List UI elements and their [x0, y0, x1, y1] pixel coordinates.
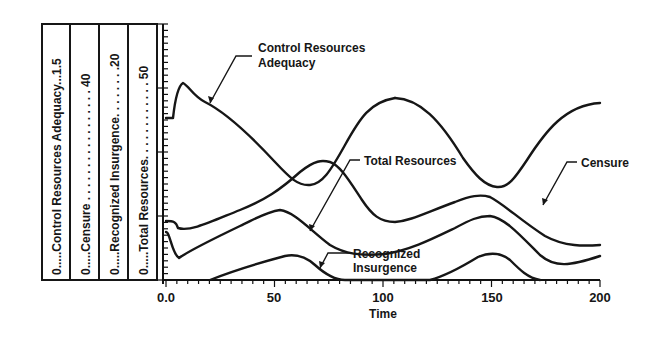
svg-text:Censure: Censure — [581, 156, 629, 170]
svg-text:Insurgence: Insurgence — [353, 261, 417, 275]
x-tick-label-150: 150 — [481, 290, 503, 305]
x-tick-label-200: 200 — [589, 290, 611, 305]
scale-legend-box: 0.....Control Resources Adequacy...1.5 0… — [42, 24, 157, 280]
x-axis-title: Time — [369, 307, 397, 321]
svg-text:Recognized: Recognized — [353, 247, 420, 261]
legend-scale-recognized-insurgence: 0.....Recognized Insurgence. . . . . . .… — [108, 53, 122, 275]
y-axis — [157, 24, 168, 284]
series-total-resources — [395, 98, 600, 187]
svg-text:Control Resources: Control Resources — [258, 41, 366, 55]
legend-scale-total-resources: 0.....Total Resources. . . . . . . . . .… — [137, 65, 151, 275]
svg-text:Total Resources: Total Resources — [364, 154, 457, 168]
series-total-resources-lower — [166, 161, 600, 246]
annotation-recognized-insurgence: Recognized Insurgence — [319, 247, 420, 275]
line-chart: 0.....Control Resources Adequacy...1.5 0… — [0, 0, 657, 337]
x-tick-label-100: 100 — [372, 290, 394, 305]
series-control-resources-adequacy — [166, 83, 395, 185]
legend-scale-control-resources-adequacy: 0.....Control Resources Adequacy...1.5 — [50, 58, 64, 275]
annotation-control-resources-adequacy: Control Resources Adequacy — [208, 41, 366, 103]
legend-scale-censure: 0.....Censure . . . . . . . . . . . . . … — [79, 73, 93, 275]
x-axis: 0.0 50 100 150 200 Time — [157, 280, 611, 321]
annotation-censure: Censure — [542, 156, 629, 205]
svg-text:Adequacy: Adequacy — [258, 56, 316, 70]
x-tick-label-0: 0.0 — [157, 290, 175, 305]
x-tick-label-50: 50 — [267, 290, 281, 305]
